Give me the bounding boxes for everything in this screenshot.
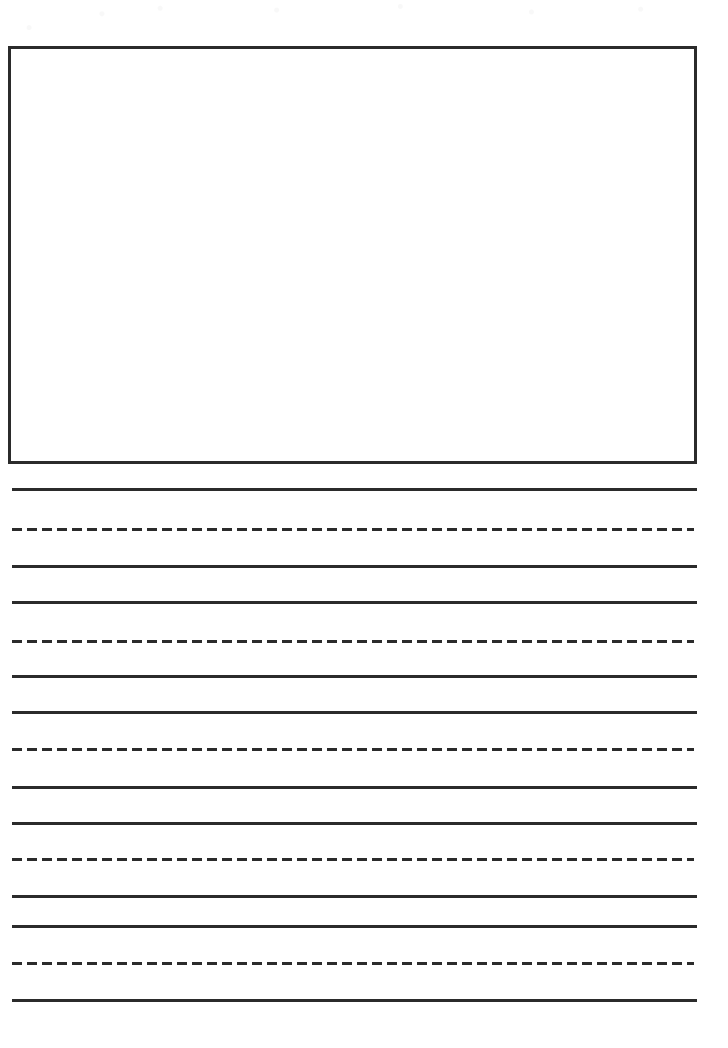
rule-line-baseline-14 <box>12 999 697 1002</box>
writing-paper-sheet <box>0 0 728 1048</box>
rule-line-midline-13 <box>12 962 694 965</box>
rule-line-midline-1 <box>12 528 694 531</box>
rule-line-baseline-11 <box>12 895 697 898</box>
rule-line-baseline-2 <box>12 565 697 568</box>
rule-line-midline-7 <box>12 748 694 751</box>
rule-line-midline-10 <box>12 858 694 861</box>
rule-line-top-line-0 <box>12 488 697 491</box>
rule-line-baseline-5 <box>12 675 697 678</box>
scan-noise-overlay <box>0 0 728 46</box>
rule-line-top-line-6 <box>12 711 697 714</box>
rule-line-midline-4 <box>12 640 694 643</box>
illustration-box[interactable] <box>8 46 697 464</box>
rule-line-top-line-9 <box>12 822 697 825</box>
rule-line-top-line-3 <box>12 601 697 604</box>
rule-line-baseline-8 <box>12 786 697 789</box>
rule-line-top-line-12 <box>12 925 697 928</box>
